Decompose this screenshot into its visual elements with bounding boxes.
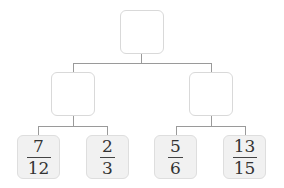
- denominator: 15: [234, 159, 256, 177]
- leaf-box-1: 7 12: [17, 135, 60, 179]
- connector-left-horizontal: [38, 126, 108, 127]
- fraction: 13 15: [233, 137, 257, 177]
- connector-right-horizontal: [176, 126, 246, 127]
- middle-right-answer-box[interactable]: [189, 72, 233, 116]
- fraction: 2 3: [100, 137, 115, 177]
- fraction: 7 12: [27, 137, 51, 177]
- connector-root-stem: [141, 54, 142, 63]
- numerator: 7: [33, 137, 44, 155]
- leaf-box-4: 13 15: [223, 135, 266, 179]
- numerator: 13: [234, 137, 256, 155]
- leaf-box-3: 5 6: [154, 135, 197, 179]
- middle-left-answer-box[interactable]: [51, 72, 95, 116]
- denominator: 3: [102, 159, 113, 177]
- denominator: 6: [170, 159, 181, 177]
- connector-left-drop-1: [38, 126, 39, 135]
- connector-root-left-drop: [73, 63, 74, 72]
- fraction: 5 6: [168, 137, 183, 177]
- connector-root-horizontal: [73, 63, 212, 64]
- leaf-box-2: 2 3: [86, 135, 129, 179]
- numerator: 5: [170, 137, 181, 155]
- connector-left-drop-2: [107, 126, 108, 135]
- connector-root-right-drop: [211, 63, 212, 72]
- numerator: 2: [102, 137, 113, 155]
- connector-right-stem: [211, 116, 212, 126]
- connector-right-drop-2: [245, 126, 246, 135]
- root-answer-box[interactable]: [120, 10, 164, 54]
- connector-right-drop-1: [176, 126, 177, 135]
- connector-left-stem: [73, 116, 74, 126]
- denominator: 12: [28, 159, 50, 177]
